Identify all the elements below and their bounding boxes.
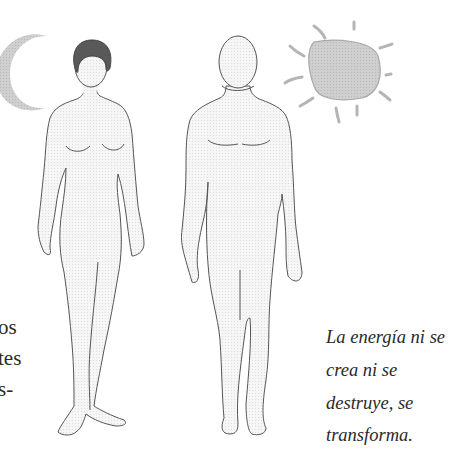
male-figure bbox=[181, 36, 302, 435]
caption-line-2: crea ni se bbox=[326, 361, 397, 380]
left-fragment-2: tes bbox=[0, 348, 21, 369]
caption-line-3: destruye, se bbox=[326, 394, 413, 413]
caption-line-1: La energía ni se bbox=[326, 328, 445, 347]
moon-icon bbox=[0, 34, 46, 110]
left-fragment-1: os bbox=[0, 317, 17, 338]
caption-line-4: transforma. bbox=[326, 426, 413, 445]
female-figure bbox=[38, 40, 144, 435]
sun-icon bbox=[285, 22, 392, 122]
left-fragment-3: s- bbox=[0, 379, 13, 400]
